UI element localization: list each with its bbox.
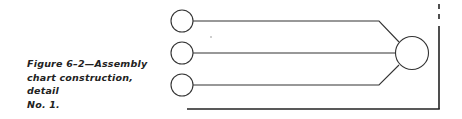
feed-line-1 xyxy=(193,21,399,42)
component-circle-1 xyxy=(171,10,193,32)
component-circle-3 xyxy=(171,74,193,96)
feed-line-3 xyxy=(193,65,399,85)
component-circle-2 xyxy=(171,42,193,64)
assembly-circle xyxy=(396,37,429,70)
assembly-chart-diagram xyxy=(0,0,462,119)
speck-mark xyxy=(210,36,211,37)
